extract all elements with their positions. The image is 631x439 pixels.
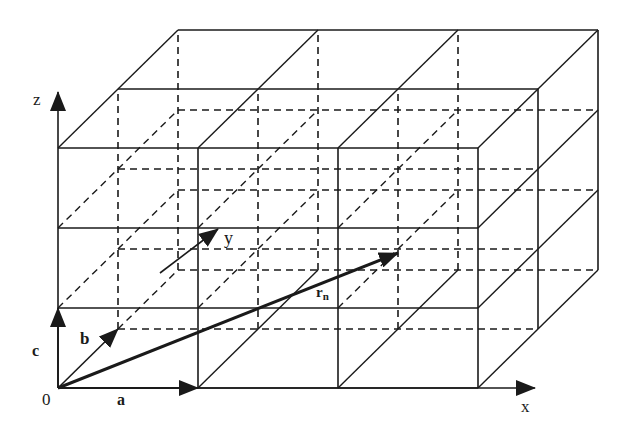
position-vector-subscript: n [323, 290, 329, 302]
coordinate-axes [58, 92, 535, 388]
vector-a-label: a [117, 391, 125, 408]
lattice-diagram: z x y a b c 0 rn [0, 0, 631, 439]
position-vector-rn [58, 253, 398, 388]
vector-c-label: c [32, 342, 39, 359]
hidden-lattice-edge-y [338, 110, 458, 228]
origin-label: 0 [42, 390, 51, 409]
y-axis-arrow [160, 229, 218, 273]
z-axis-label: z [33, 90, 41, 109]
hidden-lattice-edge-y [118, 270, 178, 329]
visible-lattice-lines [58, 30, 598, 388]
hidden-lattice-lines [58, 30, 598, 329]
y-axis-label: y [224, 228, 233, 248]
vector-b-label: b [80, 329, 89, 348]
position-vector-label: rn [316, 284, 329, 302]
x-axis-label: x [521, 397, 530, 416]
